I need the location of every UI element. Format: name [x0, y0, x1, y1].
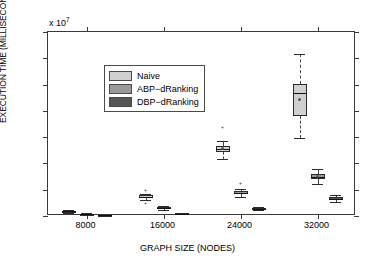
y-tick-6: [43, 137, 48, 138]
plot-area: Naive ABP−dRanking DBP−dRanking: [47, 31, 355, 215]
y-axis-exponent-power: 7: [66, 16, 70, 23]
median-line: [139, 197, 153, 198]
x-tick-top-8000: [87, 27, 88, 32]
median-line: [234, 193, 248, 194]
whisker-cap-upper: [217, 141, 228, 142]
mean-marker: [298, 98, 301, 101]
x-tick-16000: [164, 214, 165, 219]
y-tick-right-6: [354, 137, 359, 138]
y-tick-right-10: [354, 85, 359, 86]
whisker-cap-upper: [294, 54, 305, 55]
whisker-lower: [300, 116, 301, 138]
legend-item-dbp-dranking: DBP−dRanking: [109, 95, 199, 108]
whisker-upper: [300, 54, 301, 84]
y-tick-12: [43, 58, 48, 59]
legend-swatch-dbp-dranking: [109, 97, 132, 107]
median-line: [252, 209, 266, 210]
median-line: [62, 211, 76, 212]
y-axis-exponent-label: x 107: [49, 16, 70, 28]
outlier-1: [144, 202, 147, 205]
y-axis-title: EXECUTION TIME (MILLISECONDS): [0, 0, 8, 123]
outlier-0: [144, 189, 147, 192]
y-tick-2: [43, 190, 48, 191]
median-line: [329, 199, 343, 200]
median-line: [80, 214, 94, 215]
y-tick-8: [43, 111, 48, 112]
y-tick-right-14: [354, 32, 359, 33]
outlier-0: [239, 182, 242, 185]
x-axis-title: GRAPH SIZE (NODES): [0, 243, 375, 253]
whisker-cap-lower: [217, 159, 228, 160]
x-tick-label-8000: 8000: [75, 220, 95, 230]
whisker-cap-lower: [158, 210, 169, 211]
x-tick-label-16000: 16000: [150, 220, 175, 230]
median-line: [98, 215, 112, 216]
y-axis-exponent-base: x 10: [49, 18, 66, 28]
chart-legend: Naive ABP−dRanking DBP−dRanking: [104, 65, 205, 112]
boxplot-figure: x 107 EXECUTION TIME (MILLISECONDS) GRAP…: [0, 0, 375, 266]
x-tick-24000: [241, 214, 242, 219]
y-tick-0: [43, 216, 48, 217]
y-tick-right-2: [354, 190, 359, 191]
whisker-cap-upper: [312, 169, 323, 170]
x-tick-top-24000: [241, 27, 242, 32]
whisker-cap-lower: [253, 210, 264, 211]
y-tick-right-4: [354, 163, 359, 164]
whisker-cap-upper: [235, 189, 246, 190]
x-tick-label-32000: 32000: [304, 220, 329, 230]
x-tick-top-32000: [318, 27, 319, 32]
legend-swatch-naive: [109, 71, 132, 81]
median-line: [157, 208, 171, 209]
y-tick-14: [43, 32, 48, 33]
median-line: [175, 214, 189, 215]
whisker-cap-lower: [312, 184, 323, 185]
outlier-0: [221, 126, 224, 129]
x-tick-32000: [318, 214, 319, 219]
y-tick-4: [43, 163, 48, 164]
y-tick-10: [43, 85, 48, 86]
whisker-cap-lower: [330, 202, 341, 203]
legend-item-naive: Naive: [109, 69, 199, 82]
y-tick-right-0: [354, 216, 359, 217]
legend-label-naive: Naive: [137, 71, 160, 81]
x-tick-label-24000: 24000: [227, 220, 252, 230]
legend-item-abp-dranking: ABP−dRanking: [109, 82, 199, 95]
whisker-cap-lower: [294, 138, 305, 139]
x-tick-top-16000: [164, 27, 165, 32]
whisker-cap-upper: [330, 195, 341, 196]
legend-label-dbp-dranking: DBP−dRanking: [137, 97, 199, 107]
y-tick-right-12: [354, 58, 359, 59]
legend-label-abp-dranking: ABP−dRanking: [137, 84, 198, 94]
y-tick-right-8: [354, 111, 359, 112]
whisker-lower: [223, 152, 224, 159]
whisker-cap-lower: [235, 197, 246, 198]
median-line: [293, 93, 307, 94]
legend-swatch-abp-dranking: [109, 84, 132, 94]
